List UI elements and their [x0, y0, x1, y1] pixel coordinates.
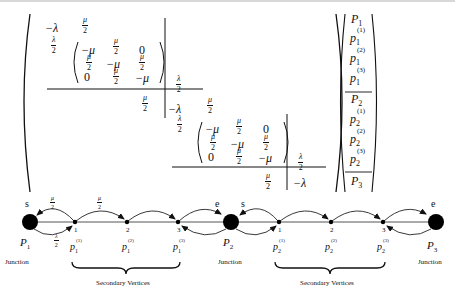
numerator: μ — [97, 195, 102, 203]
sub: 3 — [434, 246, 438, 254]
base: P — [20, 236, 27, 248]
sub: 2 — [230, 243, 234, 251]
base: P — [427, 239, 434, 251]
vertex-label-p2-1: p2 — [273, 242, 281, 254]
junction-node-P2 — [223, 214, 239, 230]
brace-label-1: Secondary Vertices — [96, 280, 150, 287]
junction-node-P1 — [22, 214, 38, 230]
vertex-sup-p2-3: (3) — [383, 238, 389, 243]
graph-edges — [0, 0, 455, 297]
sub: 2 — [278, 248, 281, 254]
label-e-P2: e — [215, 199, 219, 209]
junction-caption-3: Junction — [418, 259, 442, 266]
sub: 2 — [330, 248, 333, 254]
vertex-label-p1-1: p1 — [70, 242, 78, 254]
junction-label-P2: P2 — [223, 237, 233, 251]
vertex-num-2-1: 1 — [278, 227, 282, 234]
vertex-sup-p2-1: (1) — [279, 238, 285, 243]
vertex-sup-p2-2: (2) — [331, 238, 337, 243]
vertex-sup-p1-3: (3) — [179, 238, 185, 243]
sub: 1 — [127, 248, 130, 254]
vertex-label-p1-2: p1 — [122, 242, 130, 254]
vertex-num-2-3: 3 — [382, 227, 386, 234]
denominator: 2 — [51, 203, 54, 210]
junction-node-P3 — [428, 214, 444, 230]
rate-mu-half-1: μ2 — [50, 195, 55, 210]
rate-mu-half-2: μ2 — [97, 195, 102, 210]
numerator: λ — [54, 233, 59, 241]
vertex-num-1-2: 2 — [126, 227, 130, 234]
label-e-P3: e — [431, 199, 435, 209]
denominator: 2 — [55, 241, 58, 248]
sub: 1 — [27, 243, 31, 251]
vertex-num-1-1: 1 — [74, 227, 78, 234]
sub: 1 — [178, 248, 181, 254]
junction-label-P1: P1 — [20, 237, 30, 251]
base: P — [223, 236, 230, 248]
label-s-P1: s — [25, 199, 29, 209]
vertex-label-p2-3: p2 — [377, 242, 385, 254]
sub: 1 — [75, 248, 78, 254]
brace-label-2: Secondary Vertices — [300, 280, 354, 287]
vertex-sup-p1-2: (2) — [128, 238, 134, 243]
vertex-num-2-2: 2 — [330, 227, 334, 234]
denominator: 2 — [98, 203, 101, 210]
junction-caption-1: Junction — [5, 259, 29, 266]
vertex-label-p2-2: p2 — [325, 242, 333, 254]
rate-lambda-half: λ2 — [54, 233, 59, 248]
vertex-sup-p1-1: (1) — [76, 238, 82, 243]
label-s-P2: s — [241, 199, 245, 209]
sub: 2 — [382, 248, 385, 254]
junction-caption-2: Junction — [218, 259, 242, 266]
junction-label-P3: P3 — [427, 240, 437, 254]
numerator: μ — [50, 195, 55, 203]
vertex-num-1-3: 3 — [177, 227, 181, 234]
vertex-label-p1-3: p1 — [173, 242, 181, 254]
